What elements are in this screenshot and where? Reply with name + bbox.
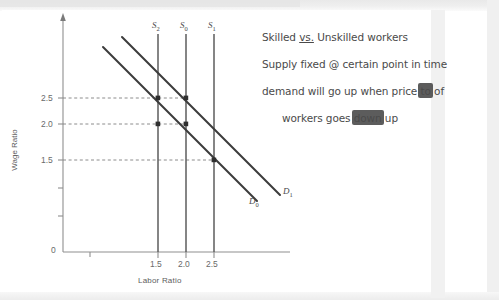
equilibrium-S0-D0 xyxy=(184,122,189,127)
y-axis-title: Wage Ratio xyxy=(10,129,19,171)
supply-demand-chart: Wage Ratio 2.5 2.0 1.5 0 1.5 2.0 2.5 Lab… xyxy=(0,0,300,300)
y-tick-label-2-5: 2.5 xyxy=(41,93,53,103)
note-segment-3-2: to xyxy=(420,78,430,105)
chart-canvas xyxy=(0,0,300,300)
curve-label-S2: S2 xyxy=(152,20,160,32)
demand-curve-D1 xyxy=(122,37,280,195)
curve-label-S1-sub: 1 xyxy=(213,25,216,32)
x-axis-ticks xyxy=(90,252,214,258)
curve-label-D1: D1 xyxy=(283,186,293,198)
scanned-page: Wage Ratio 2.5 2.0 1.5 0 1.5 2.0 2.5 Lab… xyxy=(0,0,499,300)
x-tick-label-2-5: 2.5 xyxy=(206,259,218,269)
curve-label-S0-sub: 0 xyxy=(185,25,188,32)
supply-curves xyxy=(158,34,214,252)
x-tick-label-1-5: 1.5 xyxy=(150,259,162,269)
x-axis-title: Labor Ratio xyxy=(138,276,182,285)
note-segment-1-2: vs. xyxy=(299,31,314,43)
y-axis-ticks xyxy=(58,98,63,216)
x-tick-label-2-0: 2.0 xyxy=(178,259,190,269)
curve-label-S2-sub: 2 xyxy=(157,25,160,32)
equilibrium-S1-D0 xyxy=(212,158,217,163)
note-line-3: demand will go up when price to of xyxy=(262,78,494,105)
curve-label-S1: S1 xyxy=(208,20,216,32)
note-line-1: Skilled vs. Unskilled workers xyxy=(262,24,494,51)
demand-curves xyxy=(103,37,280,201)
note-segment-4-2: down xyxy=(354,105,382,132)
note-segment-4-3: up xyxy=(382,112,398,124)
note-line-4: workers goes down up xyxy=(262,105,494,132)
note-segment-2-1: Supply fixed @ certain point in time xyxy=(262,58,447,70)
note-segment-1-1: Skilled xyxy=(262,31,299,43)
y-tick-label-origin: 0 xyxy=(51,245,56,255)
curve-label-D0: D0 xyxy=(249,196,259,208)
equilibrium-S2-D1 xyxy=(156,96,161,101)
note-segment-4-1: workers goes xyxy=(282,112,354,124)
handwritten-notes: Skilled vs. Unskilled workers Supply fix… xyxy=(262,24,494,132)
note-line-2: Supply fixed @ certain point in time xyxy=(262,51,494,78)
note-segment-3-1: demand will go up when price xyxy=(262,85,420,97)
equilibrium-S0-D1 xyxy=(184,96,189,101)
equilibrium-S2-D0 xyxy=(156,122,161,127)
note-segment-1-3: Unskilled workers xyxy=(314,31,408,43)
curve-label-D0-sub: 0 xyxy=(256,201,259,208)
y-tick-label-1-5: 1.5 xyxy=(41,155,53,165)
curve-label-S0: S0 xyxy=(180,20,188,32)
curve-label-D1-sub: 1 xyxy=(290,191,293,198)
y-tick-label-2-0: 2.0 xyxy=(41,119,53,129)
